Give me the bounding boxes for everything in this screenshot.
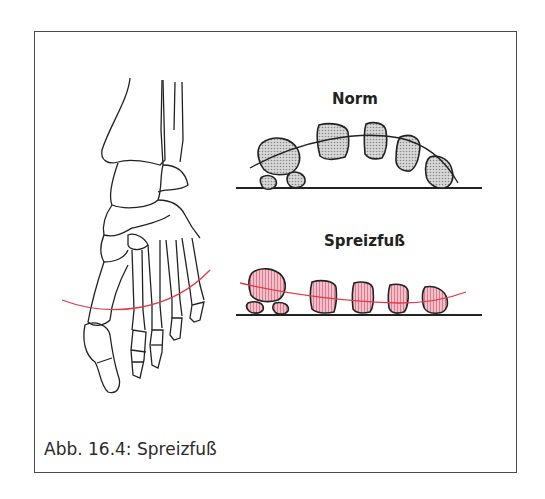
figure-caption: Abb. 16.4: Spreizfuß bbox=[44, 439, 217, 459]
norm-diagram bbox=[236, 123, 482, 190]
norm-title: Norm bbox=[332, 90, 378, 108]
spreizfuss-diagram bbox=[236, 269, 482, 315]
spreizfuss-title: Spreizfuß bbox=[324, 232, 405, 250]
foot-skeleton bbox=[84, 78, 204, 393]
foot-skeleton-illustration bbox=[0, 0, 545, 499]
